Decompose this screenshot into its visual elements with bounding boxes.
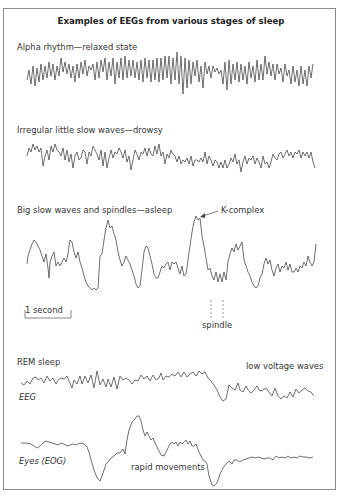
alpha-trace	[27, 52, 313, 94]
eeg-traces	[0, 0, 342, 499]
rem-eeg-trace	[21, 371, 314, 401]
eog-trace	[21, 416, 313, 486]
k-complex-arrowhead	[200, 213, 205, 218]
scale-bar	[25, 310, 71, 318]
asleep-trace	[27, 216, 316, 290]
drowsy-trace	[27, 144, 315, 172]
k-complex-arrow	[203, 211, 218, 216]
